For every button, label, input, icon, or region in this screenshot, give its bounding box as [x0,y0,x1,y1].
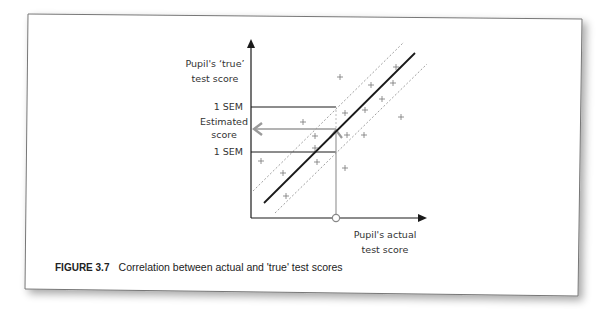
upper-sem-label: 1 SEM [214,101,243,112]
x-axis-label-line1: Pupil's actual [354,229,417,240]
lower-sem-label: 1 SEM [214,146,243,157]
y-axis-label-line1: Pupil's ‘true’ [185,58,244,69]
figure-frame [25,14,582,296]
x-axis-label-line2: test score [362,244,409,255]
figure-number: FIGURE 3.7 [55,262,110,273]
y-axis-label-line2: test score [192,73,239,84]
figure-caption-text: Correlation between actual and 'true' te… [119,261,343,273]
estimated-score-label-line2: score [211,129,237,140]
figure-canvas: Pupil's ‘true’ test score 1 SEM Estimate… [0,0,615,309]
estimated-score-label-line1: Estimated [200,116,248,127]
actual-score-marker [332,214,339,221]
